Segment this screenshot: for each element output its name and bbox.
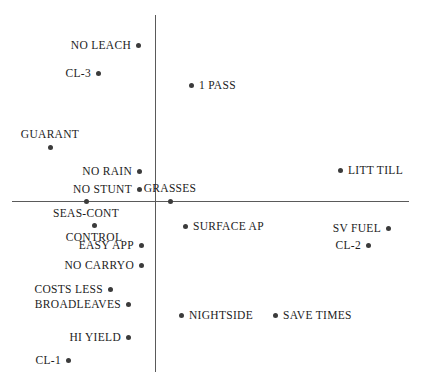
- data-point-marker: [137, 187, 142, 192]
- data-point-label: NIGHTSIDE: [189, 310, 253, 322]
- data-point-marker: [108, 287, 113, 292]
- data-point-marker: [139, 263, 144, 268]
- data-point-marker: [48, 145, 53, 150]
- data-point-label: CL-1: [36, 355, 61, 367]
- data-point-marker: [137, 169, 142, 174]
- data-point-marker: [96, 71, 101, 76]
- data-point-label: 1 PASS: [199, 80, 236, 92]
- data-point-marker: [338, 168, 343, 173]
- data-point-label: SV FUEL: [333, 223, 381, 235]
- data-point-marker: [273, 313, 278, 318]
- data-point-marker: [366, 243, 371, 248]
- data-point-marker: [92, 223, 97, 228]
- data-point-label: CL-3: [66, 68, 91, 80]
- perceptual-map-chart: NO LEACHCL-31 PASSGUARANTNO RAINLITT TIL…: [0, 0, 427, 390]
- data-point-marker: [84, 199, 89, 204]
- data-point-label: LITT TILL: [348, 165, 403, 177]
- data-point-label: NO RAIN: [82, 166, 132, 178]
- data-point-label: CL-2: [336, 240, 361, 252]
- data-point-label: NO CARRYO: [65, 260, 134, 272]
- data-point-marker: [66, 358, 71, 363]
- data-point-marker: [189, 83, 194, 88]
- data-point-marker: [179, 313, 184, 318]
- data-point-marker: [136, 43, 141, 48]
- data-point-label: COSTS LESS: [34, 284, 103, 296]
- data-point-marker: [126, 302, 131, 307]
- data-point-label: SURFACE AP: [193, 221, 264, 233]
- data-point-marker: [386, 226, 391, 231]
- data-point-label: GRASSES: [144, 183, 197, 195]
- data-point-label: NO LEACH: [71, 40, 131, 52]
- horizontal-axis: [12, 201, 409, 202]
- data-point-marker: [183, 224, 188, 229]
- data-point-label: SAVE TIMES: [283, 310, 352, 322]
- data-point-marker: [168, 199, 173, 204]
- data-point-label: GUARANT: [21, 129, 79, 141]
- data-point-label: NO STUNT: [73, 184, 132, 196]
- data-point-label: HI YIELD: [70, 332, 121, 344]
- data-point-marker: [126, 335, 131, 340]
- data-point-label: EASY APP: [79, 240, 134, 252]
- data-point-marker: [139, 243, 144, 248]
- data-point-label: BROADLEAVES: [35, 299, 121, 311]
- data-point-label: SEAS-CONT: [53, 208, 119, 220]
